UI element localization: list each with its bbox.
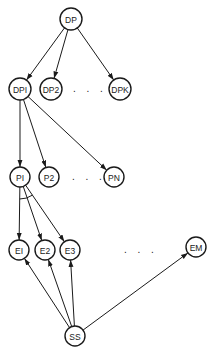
node-p1: PI [10,167,30,187]
ellipsis-2: . . . [124,244,158,255]
node-dp2: DP2 [40,78,62,100]
node-e2: E2 [35,240,55,260]
edge-ss-to-e2 [48,259,71,326]
edge-dp1-to-pn [28,97,107,171]
node-dpk: DPK [109,78,131,100]
ellipsis-1: . . . [72,171,106,182]
node-pn: PN [104,167,124,187]
edge-dp-to-dp2 [54,30,68,79]
node-label: E2 [40,246,51,256]
node-label: EI [15,246,23,256]
node-dp: DP [60,8,82,30]
node-label: EM [190,243,203,253]
edge-dp-to-dpk [77,28,113,80]
node-e1: EI [9,240,29,260]
nodes-layer: DPDPIDP2DPKPIP2PNEIE2E3EMSS [9,8,206,346]
node-label: PN [108,173,120,183]
node-em: EM [186,237,206,257]
node-label: E3 [65,246,76,256]
ellipsis-0: . . . [73,83,107,94]
edge-dp-to-dp1 [26,28,64,80]
node-label: SS [69,332,81,342]
node-e3: E3 [60,240,80,260]
node-ss: SS [65,326,85,346]
edge-p1-to-e1 [19,187,20,240]
node-label: DP [65,15,77,25]
node-label: PI [16,173,24,183]
node-dp1: DPI [9,78,31,100]
diagram-canvas: . . .. . .. . . DPDPIDP2DPKPIP2PNEIE2E3E… [0,0,215,352]
edge-ss-to-e3 [71,260,75,326]
node-label: P2 [44,173,55,183]
edge-p1-to-e3 [26,185,65,242]
node-label: DP2 [43,85,60,95]
node-label: DPI [13,85,27,95]
node-p2: P2 [39,167,59,187]
edge-ss-to-em [83,253,188,330]
edge-ss-to-e1 [24,258,69,327]
node-label: DPK [111,85,129,95]
